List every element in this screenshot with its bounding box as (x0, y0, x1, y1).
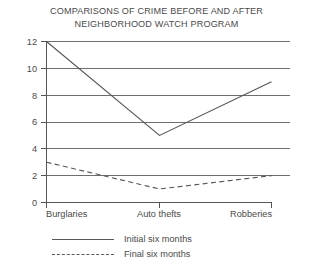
gridlines (46, 42, 290, 176)
chart-legend: Initial six months Final six months (52, 232, 282, 262)
legend-item-final-six-months: Final six months (52, 247, 282, 262)
ytick-label-6: 6 (32, 117, 37, 127)
plot-svg: 12 10 8 6 4 2 0 Burglaries Auto thefts R… (0, 0, 313, 269)
legend-swatch-solid-line-icon (52, 239, 114, 240)
y-tick-marks (41, 42, 46, 203)
x-tick-labels: Burglaries Auto thefts Robberies (46, 209, 272, 219)
xtick-label-burglaries: Burglaries (46, 209, 88, 219)
legend-label-final-six-months: Final six months (124, 249, 190, 260)
legend-item-initial-six-months: Initial six months (52, 232, 282, 247)
ytick-label-4: 4 (32, 144, 37, 154)
legend-label-initial-six-months: Initial six months (124, 234, 192, 245)
y-tick-labels: 12 10 8 6 4 2 0 (27, 37, 37, 208)
ytick-label-2: 2 (32, 171, 37, 181)
ytick-label-8: 8 (32, 91, 37, 101)
ytick-label-0: 0 (32, 198, 37, 208)
series-initial-six-months-line (47, 42, 272, 136)
legend-swatch-dashed-line-icon (52, 254, 114, 255)
xtick-label-auto-thefts: Auto thefts (137, 209, 181, 219)
xtick-label-robberies: Robberies (230, 209, 272, 219)
chart-figure: COMPARISONS OF CRIME BEFORE AND AFTER NE… (0, 0, 313, 269)
plot-area: 12 10 8 6 4 2 0 Burglaries Auto thefts R… (0, 0, 313, 269)
x-tick-marks (47, 203, 272, 208)
ytick-label-12: 12 (27, 37, 37, 47)
ytick-label-10: 10 (27, 64, 37, 74)
